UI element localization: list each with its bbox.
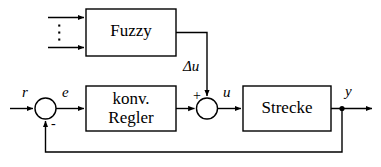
diagram-canvas [0, 0, 381, 167]
summing-junction-control [197, 98, 218, 119]
fuzzy-output-wire [176, 33, 207, 97]
block-diagram: Fuzzy konv. Regler Strecke r e Δu u y + … [0, 0, 381, 167]
fuzzy-inputs-ellipsis-icon [58, 25, 60, 41]
block-konv-regler [86, 86, 176, 131]
summing-junction-error [35, 98, 56, 119]
block-strecke [243, 86, 331, 131]
block-fuzzy [86, 9, 176, 56]
